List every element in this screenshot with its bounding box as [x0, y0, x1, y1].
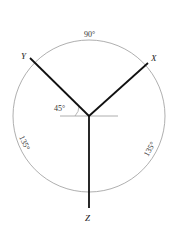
- isometric-axes-diagram: Y X Z 90° 45° 135° 135°: [0, 0, 176, 236]
- angle-45-arc: [75, 106, 79, 116]
- angle-label-reference: 45°: [54, 104, 65, 113]
- angle-label-top: 90°: [84, 30, 95, 39]
- x-axis-line: [89, 63, 148, 116]
- x-axis-label: X: [150, 53, 157, 63]
- angle-label-right: 135°: [142, 140, 157, 158]
- angle-label-left: 135°: [17, 134, 32, 152]
- y-axis-label: Y: [21, 51, 27, 61]
- z-axis-label: Z: [85, 213, 91, 223]
